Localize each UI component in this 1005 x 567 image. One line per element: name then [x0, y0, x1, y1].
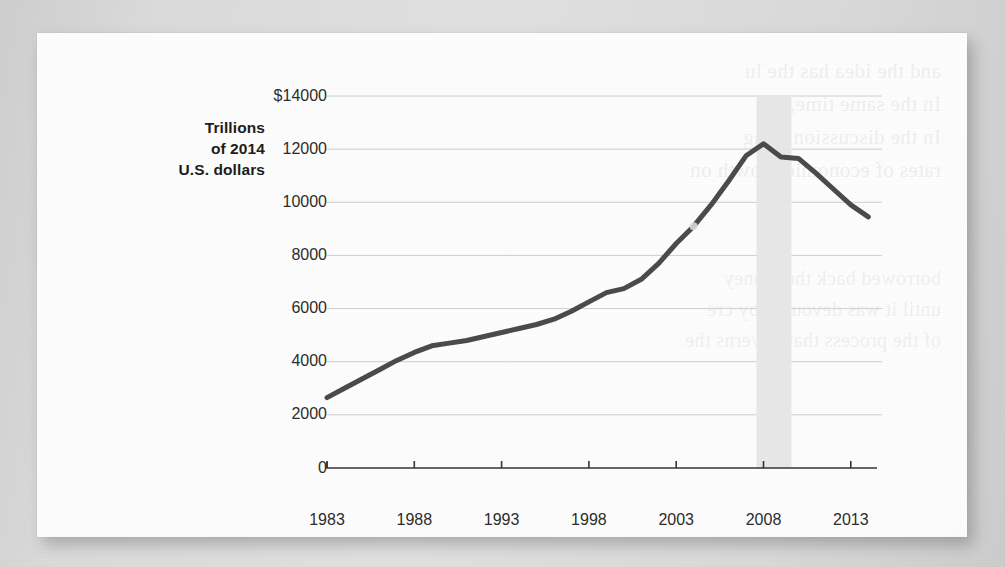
gridlines [327, 96, 882, 415]
plot-area [37, 33, 967, 537]
line-highlight-artifact [690, 222, 698, 230]
x-tick-1988: 1988 [397, 511, 433, 529]
figure-card: and the idea has the lu In the same time… [37, 33, 967, 537]
x-tick-2008: 2008 [746, 511, 782, 529]
line-chart: Trillions of 2014 U.S. dollars $14000 12… [37, 33, 967, 537]
x-tick-2003: 2003 [658, 511, 694, 529]
x-tick-1998: 1998 [571, 511, 607, 529]
x-tick-1993: 1993 [484, 511, 520, 529]
x-axis-line [327, 461, 877, 468]
x-tick-1983: 1983 [309, 511, 345, 529]
x-tick-2013: 2013 [833, 511, 869, 529]
